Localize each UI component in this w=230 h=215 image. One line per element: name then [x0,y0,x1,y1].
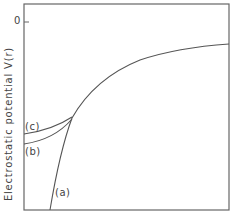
curve-label-c: (c) [25,121,40,132]
y-axis-label: Electrostatic potential V(r) [3,44,15,204]
curve-a [50,44,229,210]
y-tick-zero: 0 [14,15,20,26]
curve-label-a: (a) [55,187,70,198]
chart-plot [0,0,230,215]
curve-label-b: (b) [25,146,41,157]
plot-frame [24,4,229,210]
